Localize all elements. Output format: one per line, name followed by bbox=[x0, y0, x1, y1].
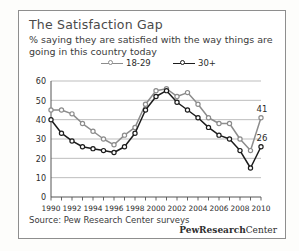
data-point bbox=[154, 94, 158, 98]
series-line-30+ bbox=[51, 91, 261, 168]
x-axis-tick-label: 1992 bbox=[63, 204, 82, 213]
y-axis-tick-label: 0 bbox=[41, 193, 46, 202]
brand-secondary: Center bbox=[246, 225, 277, 235]
x-axis-tick-label: 2008 bbox=[231, 204, 250, 213]
data-point bbox=[259, 145, 263, 149]
data-point bbox=[164, 89, 168, 93]
y-axis-tick-label: 30 bbox=[36, 135, 46, 144]
data-point bbox=[91, 147, 95, 151]
y-axis-tick-label: 60 bbox=[36, 77, 46, 86]
endpoint-label-30+: 26 bbox=[257, 133, 268, 143]
data-point bbox=[59, 108, 63, 112]
line-chart-svg: 0102030405060199019921994199619982000200… bbox=[27, 73, 279, 223]
data-point bbox=[227, 121, 231, 125]
x-axis-tick-label: 1994 bbox=[84, 204, 103, 213]
legend-marker-30-plus-icon bbox=[173, 59, 195, 67]
endpoint-label-18-29: 41 bbox=[257, 104, 268, 114]
data-point bbox=[196, 102, 200, 106]
data-point bbox=[185, 91, 189, 95]
brand-logo: PewResearchCenter bbox=[179, 225, 277, 235]
data-point bbox=[122, 133, 126, 137]
y-axis-tick-label: 50 bbox=[36, 97, 46, 106]
data-point bbox=[175, 94, 179, 98]
data-point bbox=[70, 139, 74, 143]
x-axis-tick-label: 2000 bbox=[147, 204, 166, 213]
data-point bbox=[206, 125, 210, 129]
legend-marker-18-29-icon bbox=[101, 59, 123, 67]
source-note: Source: Pew Research Center surveys bbox=[29, 215, 190, 225]
data-point bbox=[80, 121, 84, 125]
data-point bbox=[248, 149, 252, 153]
data-point bbox=[49, 108, 53, 112]
x-axis-tick-label: 1990 bbox=[42, 204, 61, 213]
x-axis-tick-label: 1996 bbox=[105, 204, 124, 213]
data-point bbox=[175, 100, 179, 104]
brand-primary: PewResearch bbox=[179, 225, 246, 235]
data-point bbox=[122, 145, 126, 149]
data-point bbox=[70, 112, 74, 116]
y-axis-tick-label: 40 bbox=[36, 116, 46, 125]
data-point bbox=[238, 149, 242, 153]
chart-legend: 18-29 30+ bbox=[101, 58, 261, 72]
data-point bbox=[91, 129, 95, 133]
chart-card: The Satisfaction Gap % saying they are s… bbox=[18, 10, 286, 239]
data-point bbox=[217, 133, 221, 137]
data-point bbox=[185, 108, 189, 112]
data-point bbox=[248, 166, 252, 170]
data-point bbox=[49, 118, 53, 122]
data-point bbox=[59, 131, 63, 135]
data-point bbox=[143, 102, 147, 106]
y-axis-tick-label: 10 bbox=[36, 174, 46, 183]
legend-label-18-29: 18-29 bbox=[126, 58, 151, 68]
x-axis-tick-label: 1998 bbox=[126, 204, 145, 213]
data-point bbox=[259, 116, 263, 120]
x-axis-tick-label: 2010 bbox=[252, 204, 271, 213]
data-point bbox=[196, 116, 200, 120]
screenshot-root: The Satisfaction Gap % saying they are s… bbox=[0, 0, 299, 251]
data-point bbox=[101, 149, 105, 153]
plot-area: 0102030405060199019921994199619982000200… bbox=[27, 73, 279, 223]
legend-label-30-plus: 30+ bbox=[198, 58, 216, 68]
data-point bbox=[206, 116, 210, 120]
x-axis-tick-label: 2004 bbox=[189, 204, 208, 213]
data-point bbox=[227, 137, 231, 141]
data-point bbox=[80, 145, 84, 149]
data-point bbox=[217, 121, 221, 125]
data-point bbox=[154, 89, 158, 93]
x-axis-tick-label: 2002 bbox=[168, 204, 187, 213]
data-point bbox=[143, 108, 147, 112]
data-point bbox=[112, 150, 116, 154]
y-axis-tick-label: 20 bbox=[36, 155, 46, 164]
x-axis-tick-label: 2006 bbox=[210, 204, 229, 213]
data-point bbox=[133, 131, 137, 135]
chart-subtitle: % saying they are satisfied with the way… bbox=[29, 34, 277, 57]
data-point bbox=[238, 137, 242, 141]
legend-item-30-plus[interactable]: 30+ bbox=[173, 58, 216, 68]
legend-item-18-29[interactable]: 18-29 bbox=[101, 58, 151, 68]
page-title: The Satisfaction Gap bbox=[29, 17, 163, 32]
data-point bbox=[112, 143, 116, 147]
data-point bbox=[101, 137, 105, 141]
